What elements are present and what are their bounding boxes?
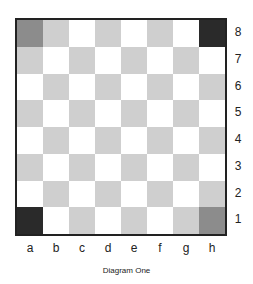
square-c7 xyxy=(69,47,95,74)
square-d2 xyxy=(95,181,121,208)
square-d1 xyxy=(95,207,121,234)
file-label-b: b xyxy=(43,241,69,255)
square-e1 xyxy=(121,207,147,234)
chessboard xyxy=(15,18,227,236)
rank-label-4: 4 xyxy=(232,132,244,146)
square-h5 xyxy=(199,100,225,127)
square-e7 xyxy=(121,47,147,74)
square-h8 xyxy=(199,20,225,47)
square-h2 xyxy=(199,181,225,208)
rank-label-8: 8 xyxy=(232,25,244,39)
square-g1 xyxy=(173,207,199,234)
square-g3 xyxy=(173,154,199,181)
square-e8 xyxy=(121,20,147,47)
square-h1 xyxy=(199,207,225,234)
square-d5 xyxy=(95,100,121,127)
square-a5 xyxy=(17,100,43,127)
file-label-d: d xyxy=(95,241,121,255)
square-f4 xyxy=(147,127,173,154)
rank-label-5: 5 xyxy=(232,105,244,119)
diagram-caption: Diagram One xyxy=(0,266,253,275)
board-grid xyxy=(17,20,225,234)
square-d7 xyxy=(95,47,121,74)
square-d6 xyxy=(95,74,121,101)
square-b1 xyxy=(43,207,69,234)
square-f3 xyxy=(147,154,173,181)
square-h6 xyxy=(199,74,225,101)
file-label-f: f xyxy=(147,241,173,255)
square-b5 xyxy=(43,100,69,127)
file-label-e: e xyxy=(121,241,147,255)
square-e2 xyxy=(121,181,147,208)
square-a3 xyxy=(17,154,43,181)
square-b3 xyxy=(43,154,69,181)
square-c3 xyxy=(69,154,95,181)
square-e6 xyxy=(121,74,147,101)
square-g8 xyxy=(173,20,199,47)
rank-label-6: 6 xyxy=(232,79,244,93)
square-c2 xyxy=(69,181,95,208)
square-f2 xyxy=(147,181,173,208)
square-d4 xyxy=(95,127,121,154)
square-a4 xyxy=(17,127,43,154)
square-a6 xyxy=(17,74,43,101)
square-e3 xyxy=(121,154,147,181)
file-label-c: c xyxy=(69,241,95,255)
file-label-a: a xyxy=(17,241,43,255)
square-b8 xyxy=(43,20,69,47)
rank-label-2: 2 xyxy=(232,186,244,200)
square-h3 xyxy=(199,154,225,181)
square-g7 xyxy=(173,47,199,74)
square-f6 xyxy=(147,74,173,101)
square-g4 xyxy=(173,127,199,154)
square-c1 xyxy=(69,207,95,234)
rank-label-1: 1 xyxy=(232,212,244,226)
square-d3 xyxy=(95,154,121,181)
square-d8 xyxy=(95,20,121,47)
square-e4 xyxy=(121,127,147,154)
square-g5 xyxy=(173,100,199,127)
square-g6 xyxy=(173,74,199,101)
square-h7 xyxy=(199,47,225,74)
rank-label-3: 3 xyxy=(232,159,244,173)
file-label-h: h xyxy=(199,241,225,255)
square-a2 xyxy=(17,181,43,208)
file-label-g: g xyxy=(173,241,199,255)
square-h4 xyxy=(199,127,225,154)
square-a7 xyxy=(17,47,43,74)
square-f5 xyxy=(147,100,173,127)
square-f1 xyxy=(147,207,173,234)
square-c6 xyxy=(69,74,95,101)
square-g2 xyxy=(173,181,199,208)
square-a1 xyxy=(17,207,43,234)
square-a8 xyxy=(17,20,43,47)
square-f8 xyxy=(147,20,173,47)
square-c8 xyxy=(69,20,95,47)
square-c4 xyxy=(69,127,95,154)
square-b2 xyxy=(43,181,69,208)
square-e5 xyxy=(121,100,147,127)
square-c5 xyxy=(69,100,95,127)
square-f7 xyxy=(147,47,173,74)
rank-label-7: 7 xyxy=(232,52,244,66)
square-b4 xyxy=(43,127,69,154)
square-b6 xyxy=(43,74,69,101)
square-b7 xyxy=(43,47,69,74)
